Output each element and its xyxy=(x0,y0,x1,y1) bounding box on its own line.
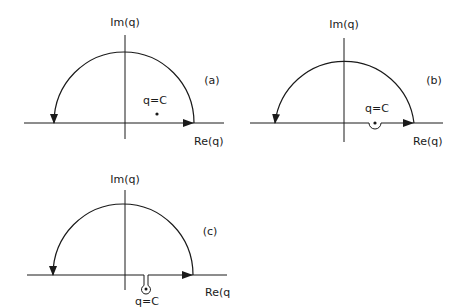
panel-c: q=C Im(q) Re(q (c) xyxy=(27,173,230,307)
x-axis-label: Re(q) xyxy=(413,135,442,148)
panel-tag: (c) xyxy=(203,225,218,238)
pole-point xyxy=(155,112,158,115)
contour-diagram: q=C Im(q) Re(q) (a) q=C Im(q) Re(q) (b) … xyxy=(0,0,470,307)
pole-label: q=C xyxy=(365,102,389,115)
y-axis-label: Im(q) xyxy=(110,16,140,29)
pole-label: q=C xyxy=(143,94,167,107)
panel-tag: (b) xyxy=(426,74,442,87)
contour-arc xyxy=(54,52,194,123)
x-axis-label: Re(q) xyxy=(194,135,223,148)
direction-arrow-icon xyxy=(182,271,193,279)
panel-b: q=C Im(q) Re(q) (b) xyxy=(250,18,443,148)
pole-label: q=C xyxy=(135,295,159,307)
direction-arrow-icon xyxy=(183,119,194,127)
pole-point xyxy=(145,288,148,291)
panel-a: q=C Im(q) Re(q) (a) xyxy=(24,16,224,148)
y-axis-label: Im(q) xyxy=(110,173,140,186)
pole-point xyxy=(373,121,376,124)
contour-arc xyxy=(53,204,193,275)
y-axis-label: Im(q) xyxy=(329,18,359,31)
keyhole-detour xyxy=(142,275,151,294)
direction-arrow-icon xyxy=(403,119,414,127)
panel-tag: (a) xyxy=(204,74,219,87)
x-axis-label: Re(q xyxy=(205,286,230,299)
